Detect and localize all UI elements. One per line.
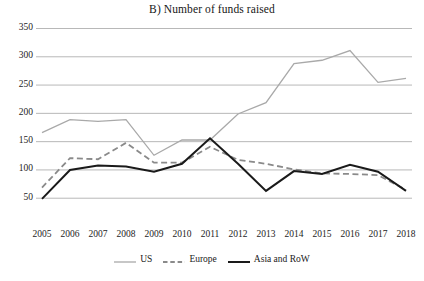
x-axis-tick-label: 2014 [285,229,304,240]
x-axis-tick-label: 2015 [313,229,332,240]
y-axis-tick-label: 150 [0,136,33,146]
x-axis-tick-label: 2017 [369,229,388,240]
x-axis-tick-label: 2009 [145,229,164,240]
x-axis-tick-label: 2006 [61,229,80,240]
plot-area [36,28,412,226]
y-axis-tick-label: 300 [0,51,33,61]
series-lines [42,51,406,199]
x-axis-tick-label: 2005 [33,229,52,240]
x-axis-tick-label: 2013 [257,229,276,240]
y-axis-tick-label: 50 [0,193,33,203]
legend-item-asia-and-row: Asia and RoW [228,254,310,264]
y-axis-tick-label: 200 [0,108,33,118]
x-axis-tick-label: 2011 [201,229,220,240]
series-line-us [42,51,406,156]
x-axis-tick-label: 2012 [229,229,248,240]
y-axis-tick-label: 100 [0,164,33,174]
x-axis-tick-label: 2007 [89,229,108,240]
y-axis-tick-label: 250 [0,80,33,90]
x-axis-tick-label: 2018 [397,229,416,240]
y-axis-tick-labels: 50100150200250300350 [0,28,33,226]
plot-svg [36,28,412,226]
chart-figure: B) Number of funds raised 50100150200250… [0,0,424,281]
x-axis-tick-label: 2008 [117,229,136,240]
legend-label: Asia and RoW [254,254,310,264]
x-axis-tick-label: 2010 [173,229,192,240]
legend-item-us: US [114,254,152,264]
x-axis-tick-label: 2016 [341,229,360,240]
y-axis-tick-label: 350 [0,23,33,33]
series-line-asia-and-row [42,138,406,199]
x-axis-tick-labels: 2005200620072008200920102011201220132014… [36,229,412,243]
chart-title: B) Number of funds raised [0,3,424,15]
legend-item-europe: Europe [163,254,216,264]
legend-label: US [140,254,152,264]
legend-label: Europe [189,254,216,264]
chart-legend: USEuropeAsia and RoW [0,254,424,264]
gridlines [36,29,412,199]
